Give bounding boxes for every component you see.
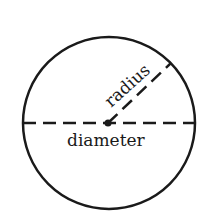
- center-point: [105, 120, 112, 127]
- diameter-label: diameter: [67, 130, 146, 150]
- circle-diagram: radius diameter: [0, 0, 206, 211]
